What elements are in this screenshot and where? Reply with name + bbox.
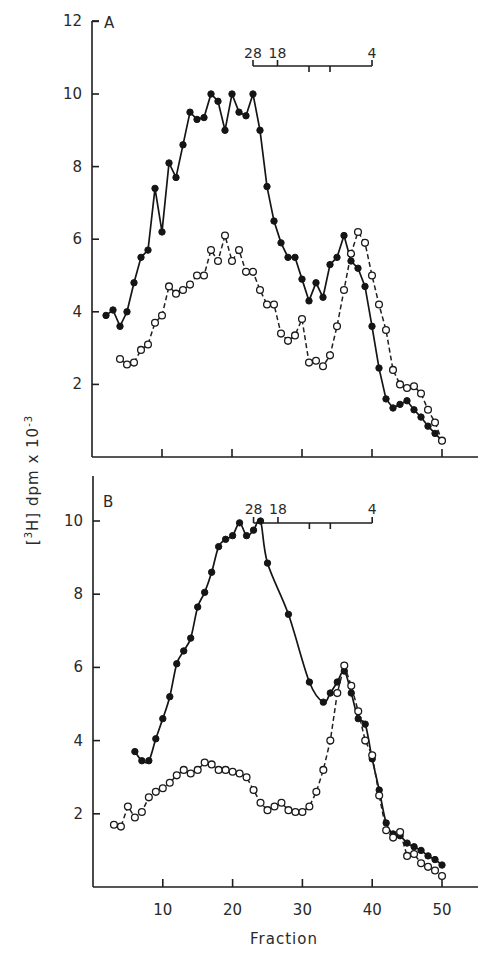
closed-circle-point — [334, 679, 340, 685]
open-circle-point — [306, 359, 313, 366]
closed-circle-point — [397, 401, 403, 407]
x-tick-label: 10 — [153, 901, 172, 919]
open-circle-point — [271, 301, 278, 308]
closed-circle-point — [103, 312, 109, 318]
open-circle-point — [118, 823, 125, 830]
open-circle-point — [383, 327, 390, 334]
x-axis-title: Fraction — [250, 930, 318, 948]
open-circle-point — [166, 283, 173, 290]
panel-a: A 12108642 28184 — [63, 12, 478, 457]
open-circle-point — [173, 290, 180, 297]
closed-circle-point — [180, 142, 186, 148]
closed-circle-point — [425, 853, 431, 859]
closed-circle-point — [173, 174, 179, 180]
y-tick-label: 6 — [72, 230, 82, 248]
closed-circle-point — [355, 715, 361, 721]
closed-circle-point — [195, 604, 201, 610]
closed-circle-point — [215, 98, 221, 104]
open-circle-point — [236, 770, 243, 777]
open-circle-point — [138, 347, 145, 354]
open-circle-point — [306, 803, 313, 810]
open-circle-point — [334, 690, 341, 697]
open-circle-point — [362, 239, 369, 246]
open-circle-point — [145, 794, 152, 801]
closed-circle-point — [222, 536, 228, 542]
open-circle-point — [355, 229, 362, 236]
closed-circle-point — [208, 569, 214, 575]
open-circle-point — [425, 406, 432, 413]
closed-circle-point — [327, 261, 333, 267]
closed-circle-point — [257, 127, 263, 133]
open-circle-point — [131, 359, 138, 366]
panel-a-label: A — [104, 14, 115, 32]
open-circle-point — [257, 799, 264, 806]
closed-circle-point — [313, 280, 319, 286]
open-circle-point — [166, 779, 173, 786]
open-circle-point — [285, 337, 292, 344]
closed-circle-point — [236, 520, 242, 526]
open-circle-point — [390, 834, 397, 841]
x-tick-label: 50 — [432, 901, 451, 919]
open-circle-point — [292, 332, 299, 339]
open-circle-point — [124, 361, 131, 368]
closed-circle-point — [348, 258, 354, 264]
open-circle-point — [152, 788, 159, 795]
closed-circle-point — [194, 116, 200, 122]
open-circle-point — [320, 363, 327, 370]
open-circle-point — [299, 809, 306, 816]
open-circle-point — [229, 768, 236, 775]
closed-circle-point — [299, 276, 305, 282]
closed-circle-point — [390, 405, 396, 411]
open-circle-point — [159, 312, 166, 319]
open-circle-point — [376, 301, 383, 308]
closed-circle-point — [110, 307, 116, 313]
sedimentation-marker-label: 4 — [368, 501, 377, 517]
y-tick-label: 8 — [72, 158, 82, 176]
open-circle-point — [264, 807, 271, 814]
closed-circle-point — [327, 690, 333, 696]
open-circle-point — [362, 737, 369, 744]
closed-circle-point — [418, 847, 424, 853]
closed-circle-point — [355, 265, 361, 271]
closed-circle-point — [229, 532, 235, 538]
sedimentation-marker-label: 4 — [368, 45, 377, 61]
closed-circle-point — [187, 109, 193, 115]
open-circle-point — [418, 390, 425, 397]
open-circle-point — [278, 330, 285, 337]
closed-circle-point — [285, 254, 291, 260]
closed-circle-point — [208, 91, 214, 97]
closed-circle-point — [306, 679, 312, 685]
closed-circle-point — [243, 532, 249, 538]
open-circle-point — [397, 381, 404, 388]
open-circle-point — [257, 287, 264, 294]
open-circle-point — [215, 258, 222, 265]
closed-circle-point — [320, 699, 326, 705]
open-circle-point — [320, 766, 327, 773]
open-circle-point — [152, 319, 159, 326]
panel-a-axes: 12108642 — [63, 12, 478, 457]
open-circle-point — [208, 761, 215, 768]
closed-circle-point — [306, 298, 312, 304]
panel-a-sedimentation-markers: 28184 — [244, 45, 376, 72]
open-circle-point — [383, 827, 390, 834]
open-circle-point — [201, 272, 208, 279]
panel-a-series — [103, 91, 446, 444]
open-circle-point — [194, 766, 201, 773]
open-circle-point — [404, 385, 411, 392]
closed-circle-point — [404, 398, 410, 404]
y-tick-label: 4 — [73, 732, 83, 750]
open-circle-point — [111, 821, 118, 828]
open-circle-point — [194, 272, 201, 279]
y-tick-label: 6 — [73, 658, 83, 676]
open-circle-point — [327, 352, 334, 359]
closed-circle-point — [201, 589, 207, 595]
open-circle-point — [173, 772, 180, 779]
closed-circle-point — [181, 648, 187, 654]
open-circle-point — [117, 356, 124, 363]
sedimentation-marker-label: 28 — [245, 501, 263, 517]
closed-circle-point — [250, 527, 256, 533]
y-axis-title-text: [3H] dpm x 10-3 — [23, 415, 42, 545]
open-circle-point — [159, 785, 166, 792]
open-circle-point — [285, 807, 292, 814]
closed-circle-point — [334, 254, 340, 260]
